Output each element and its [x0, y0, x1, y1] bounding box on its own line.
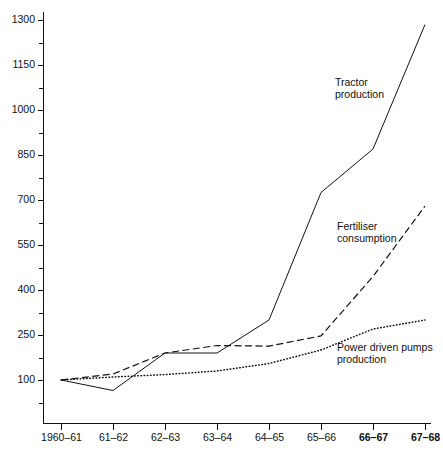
- x-axis-tick-label: 66–67: [359, 431, 388, 443]
- x-axis-tick-label: 67–68: [411, 431, 440, 443]
- y-axis-tick-label: 550: [17, 238, 35, 250]
- x-axis-tick-label: 61–62: [99, 431, 128, 443]
- series-line-tractor-production: [61, 25, 425, 391]
- annotation-tractor-production: Tractorproduction: [335, 76, 384, 100]
- x-axis-tick-label: 1960–61: [41, 431, 82, 443]
- line-chart: 100250400550700850100011501300 1960–6161…: [0, 0, 443, 454]
- y-axis-tick-label: 700: [17, 193, 35, 205]
- y-axis-tick-label: 100: [17, 373, 35, 385]
- x-axis-tick-label: 63–64: [203, 431, 232, 443]
- x-axis-tick-labels: 1960–6161–6262–6363–6464–6565–6666–6767–…: [41, 431, 440, 443]
- annotation-fertiliser-consumption: Fertiliserconsumption: [337, 220, 397, 244]
- chart-svg: 100250400550700850100011501300 1960–6161…: [0, 0, 443, 454]
- x-axis-tick-label: 65–66: [307, 431, 336, 443]
- annotation-power-driven-pumps-production: Power driven pumpsproduction: [337, 341, 433, 365]
- y-axis-tick-label: 400: [17, 283, 35, 295]
- x-axis-tick-label: 62–63: [151, 431, 180, 443]
- x-axis-tick-label: 64–65: [255, 431, 284, 443]
- x-axis-ticks: [62, 424, 426, 430]
- y-axis-tick-label: 1000: [12, 103, 36, 115]
- y-axis-tick-label: 1150: [12, 58, 35, 70]
- y-axis-tick-label: 250: [17, 328, 35, 340]
- y-axis-tick-label: 1300: [12, 13, 36, 25]
- y-axis-tick-label: 850: [17, 148, 35, 160]
- y-axis-ticks: [38, 21, 44, 404]
- y-axis-tick-labels: 100250400550700850100011501300: [12, 13, 36, 385]
